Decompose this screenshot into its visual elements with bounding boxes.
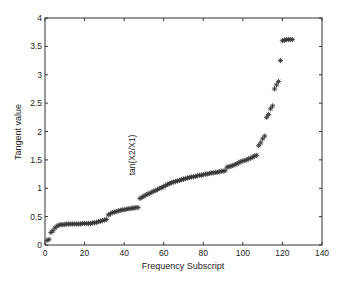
- axes-box: [45, 18, 322, 245]
- series-annotation: tan(X2/X1): [127, 135, 137, 176]
- asterisk-marker: [104, 217, 109, 222]
- x-tick-label: 80: [199, 248, 209, 258]
- y-tick-label: 4: [37, 13, 42, 23]
- y-tick-label: 1: [37, 183, 42, 193]
- y-tick-label: 1.5: [30, 155, 42, 165]
- y-tick-label: 0.5: [30, 212, 42, 222]
- y-tick-label: 2.5: [30, 98, 42, 108]
- y-axis-label: Tangent value: [13, 104, 23, 160]
- x-tick-label: 40: [119, 248, 129, 258]
- asterisk-marker: [266, 112, 271, 117]
- axis-ticks: 02040608010012014000.511.522.533.54: [30, 13, 329, 258]
- asterisk-marker: [254, 153, 259, 158]
- x-tick-label: 140: [315, 248, 329, 258]
- x-tick-label: 100: [236, 248, 250, 258]
- asterisk-marker: [135, 205, 140, 210]
- x-axis-label: Frequency Subscript: [142, 261, 225, 271]
- y-tick-label: 2: [37, 127, 42, 137]
- y-tick-label: 3: [37, 70, 42, 80]
- data-points: [44, 37, 295, 243]
- scatter-chart: 02040608010012014000.511.522.533.54 Freq…: [0, 0, 347, 282]
- asterisk-marker: [46, 237, 51, 242]
- y-tick-label: 0: [37, 240, 42, 250]
- x-tick-label: 120: [275, 248, 289, 258]
- x-tick-label: 60: [159, 248, 169, 258]
- asterisk-marker: [278, 58, 283, 63]
- plot-frame: [45, 18, 322, 245]
- asterisk-marker: [262, 133, 267, 138]
- y-tick-label: 3.5: [30, 41, 42, 51]
- x-tick-label: 0: [43, 248, 48, 258]
- x-tick-label: 20: [80, 248, 90, 258]
